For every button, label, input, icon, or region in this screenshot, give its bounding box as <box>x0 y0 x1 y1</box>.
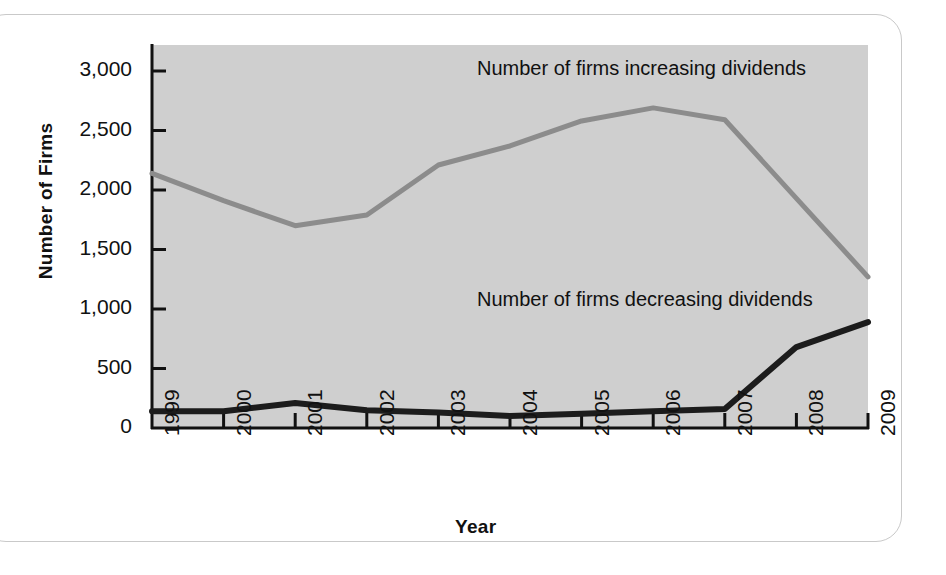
x-tick-label: 2000 <box>232 389 256 436</box>
x-tick-label: 2004 <box>518 389 542 436</box>
y-tick-label: 1,000 <box>40 295 132 319</box>
y-tick-label: 0 <box>40 414 132 438</box>
x-tick-label: 2009 <box>876 389 900 436</box>
x-tick-label: 1999 <box>160 389 184 436</box>
annotation-increasing-dividends: Number of firms increasing dividends <box>477 57 806 80</box>
x-tick-label: 2005 <box>590 389 614 436</box>
y-tick-label: 1,500 <box>40 236 132 260</box>
y-tick-label: 2,000 <box>40 176 132 200</box>
plot-area-background <box>152 45 868 428</box>
chart-figure: Number of Firms Year 05001,0001,5002,000… <box>0 0 946 575</box>
y-tick-label: 2,500 <box>40 117 132 141</box>
x-tick-label: 2007 <box>733 389 757 436</box>
annotation-decreasing-dividends: Number of firms decreasing dividends <box>477 288 813 311</box>
x-tick-label: 2008 <box>804 389 828 436</box>
x-axis-title: Year <box>455 516 496 538</box>
x-tick-label: 2006 <box>661 389 685 436</box>
x-tick-label: 2003 <box>446 389 470 436</box>
y-tick-label: 500 <box>40 355 132 379</box>
y-tick-label: 3,000 <box>40 57 132 81</box>
x-tick-label: 2001 <box>303 389 327 436</box>
x-tick-label: 2002 <box>375 389 399 436</box>
